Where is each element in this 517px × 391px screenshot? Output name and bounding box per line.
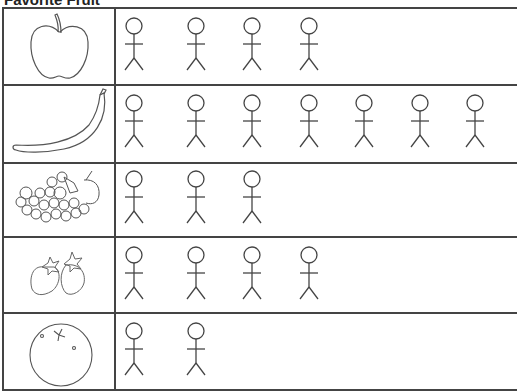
person-icon <box>184 94 208 150</box>
row-divider <box>2 312 517 314</box>
row-divider <box>2 7 517 9</box>
person-icon <box>240 246 264 302</box>
person-icon <box>463 94 487 150</box>
person-icon <box>184 170 208 226</box>
apple-icon <box>4 10 114 82</box>
person-icon <box>240 170 264 226</box>
column-divider <box>114 7 116 391</box>
banana-icon <box>4 87 114 160</box>
orange-icon <box>4 315 114 388</box>
person-icon <box>122 322 146 378</box>
person-icon <box>297 94 321 150</box>
row-divider <box>2 84 517 86</box>
person-icon <box>240 94 264 150</box>
person-icon <box>184 322 208 378</box>
row-divider <box>2 389 517 391</box>
person-icon <box>297 17 321 73</box>
person-icon <box>240 17 264 73</box>
person-icon <box>122 94 146 150</box>
person-icon <box>408 94 432 150</box>
strawberry-icon <box>4 239 114 311</box>
person-icon <box>122 246 146 302</box>
person-icon <box>184 17 208 73</box>
grapes-icon <box>4 165 114 234</box>
row-divider <box>2 236 517 238</box>
row-divider <box>2 162 517 164</box>
person-icon <box>122 170 146 226</box>
person-icon <box>352 94 376 150</box>
person-icon <box>122 17 146 73</box>
person-icon <box>184 246 208 302</box>
person-icon <box>297 246 321 302</box>
